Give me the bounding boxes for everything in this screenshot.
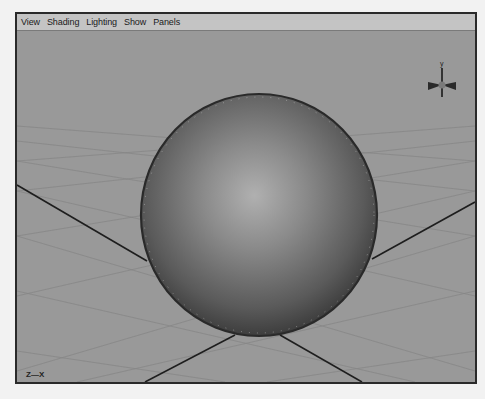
sphere-object <box>141 94 377 336</box>
viewport-panel: View Shading Lighting Show Panels <box>15 12 477 384</box>
menu-view[interactable]: View <box>21 17 40 27</box>
menu-show[interactable]: Show <box>124 17 146 27</box>
svg-text:y: y <box>440 60 444 68</box>
3d-viewport[interactable]: y Z—X persp <box>17 31 475 382</box>
viewport-scene: y <box>17 31 475 382</box>
view-axis-gizmo: y <box>428 60 456 97</box>
menu-panels[interactable]: Panels <box>153 17 180 27</box>
menu-lighting[interactable]: Lighting <box>86 17 117 27</box>
axis-indicator: Z—X <box>26 370 44 379</box>
menu-shading[interactable]: Shading <box>47 17 79 27</box>
panel-menubar: View Shading Lighting Show Panels <box>17 14 475 31</box>
